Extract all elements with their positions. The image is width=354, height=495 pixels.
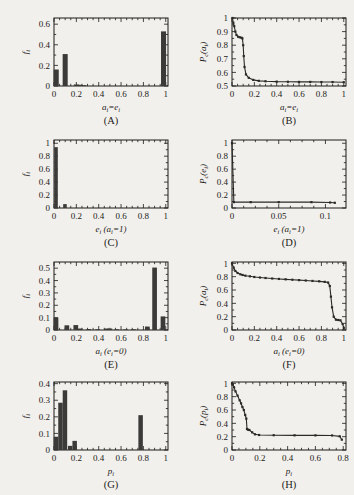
svg-text:0.4: 0.4 [217,177,229,187]
bar [114,329,119,330]
data-point [253,276,255,278]
bar [68,446,72,450]
svg-text:0.4: 0.4 [93,89,105,99]
svg-text:0.8: 0.8 [316,333,328,343]
svg-text:0.2: 0.2 [39,300,50,310]
svg-text:0.1: 0.1 [320,211,331,221]
data-point [248,77,250,79]
x-axis-label: ai=ei [280,102,298,113]
data-point [234,390,236,392]
data-point [298,81,300,83]
panel-label: (G) [104,479,119,491]
svg-text:0.8: 0.8 [217,151,229,161]
svg-text:1: 1 [164,453,169,463]
bar [161,31,166,86]
bar [65,325,70,330]
series-h [231,382,343,441]
svg-text:0.2: 0.2 [71,453,82,463]
bar [123,329,128,330]
series-e [54,268,166,330]
plot-panel-e: 00.20.40.60.8100.10.20.30.40.5ai (ei=0)f… [2,248,174,370]
data-point [233,267,235,269]
svg-text:0.6: 0.6 [217,164,229,174]
data-point [259,276,261,278]
svg-text:0.2: 0.2 [217,312,228,322]
data-point [258,434,260,436]
data-point [335,319,337,321]
bar [54,70,59,86]
svg-text:0.4: 0.4 [271,89,283,99]
svg-text:0.8: 0.8 [217,272,229,282]
data-point [339,319,341,321]
svg-text:0: 0 [46,325,51,335]
bar [54,318,59,330]
svg-text:0.5: 0.5 [217,81,229,91]
data-point [287,81,289,83]
svg-text:0.8: 0.8 [39,151,51,161]
svg-text:0.8: 0.8 [217,392,229,402]
data-point [331,434,333,436]
svg-text:0.2: 0.2 [39,412,50,422]
svg-text:0.1: 0.1 [39,429,50,439]
data-point [264,277,266,279]
data-point [241,406,243,408]
plot-panel-c: 00.20.40.60.8100.20.40.60.81ei (ai=1)fi(… [2,126,174,248]
data-point [245,418,247,420]
svg-text:1: 1 [164,89,169,99]
y-axis-label: Pc(pi) [198,406,209,428]
data-point [278,201,280,203]
svg-text:0.6: 0.6 [293,333,305,343]
data-point [309,81,311,83]
data-point [258,80,260,82]
data-point [331,81,333,83]
data-point [234,270,236,272]
data-point [232,22,234,24]
svg-text:1: 1 [46,138,51,148]
svg-text:0.2: 0.2 [217,432,228,442]
data-point [243,409,245,411]
svg-text:0.6: 0.6 [115,211,127,221]
data-point [273,434,275,436]
bar [95,329,100,330]
data-point [343,327,345,329]
svg-text:0: 0 [52,453,57,463]
bar [63,204,67,208]
svg-text:0.2: 0.2 [217,190,228,200]
x-axis-label: ai (ei=0) [274,346,305,357]
svg-text:0.4: 0.4 [39,177,51,187]
panel-label: (H) [282,479,297,491]
bar [145,327,150,330]
data-point [278,278,280,280]
data-point [329,201,331,203]
svg-text:0.6: 0.6 [115,453,127,463]
bar [108,329,113,330]
data-point [320,81,322,83]
data-point [329,285,331,287]
curve [232,263,344,328]
x-axis-label: ai (ei=0) [96,346,127,357]
svg-text:0.2: 0.2 [254,453,265,463]
x-axis-label: pi [285,466,293,477]
data-point [314,434,316,436]
data-point [244,275,246,277]
svg-text:0.4: 0.4 [217,419,229,429]
data-point [333,316,335,318]
data-point [342,323,344,325]
y-axis-label: Pc(ai) [198,286,209,308]
svg-text:0.2: 0.2 [249,89,260,99]
x-axis-label: ai=ei [102,102,120,113]
data-point [245,73,247,75]
bar [138,415,142,450]
bar [63,390,67,450]
data-point [248,429,250,431]
svg-text:0: 0 [224,325,229,335]
svg-text:0: 0 [224,445,229,455]
plot-panel-h: 00.20.40.60.800.20.40.60.81piPc(pi)(H) [180,368,352,490]
data-point [327,281,329,283]
series-b [231,17,345,83]
svg-text:0: 0 [230,89,235,99]
svg-text:1: 1 [342,333,347,343]
curve [232,18,343,82]
data-point [231,17,233,19]
curve [232,383,342,439]
